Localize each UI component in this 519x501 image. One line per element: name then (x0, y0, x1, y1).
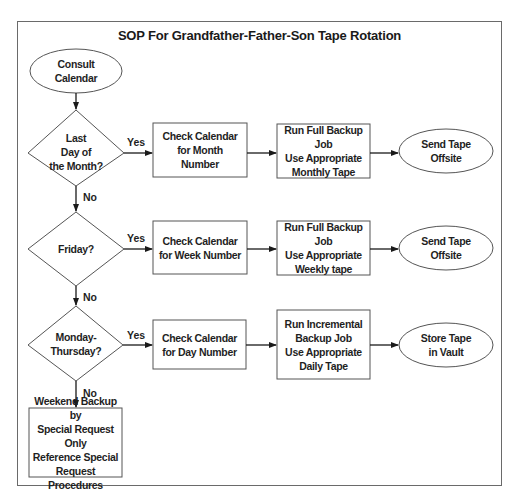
start-node-label: Consult Calendar (30, 49, 122, 93)
diagram-title: SOP For Grandfather-Father-Son Tape Rota… (0, 28, 519, 43)
check-week-label: Check Calendar for Week Number (153, 221, 247, 274)
decision-friday-label: Friday? (36, 240, 116, 258)
end-weekly-label: Send Tape Offsite (399, 226, 493, 270)
run-weekly-label: Run Full Backup Job Use Appropriate Week… (277, 221, 370, 275)
edge-label-friday-no: No (83, 291, 97, 303)
end-monthly-label: Send Tape Offsite (399, 129, 493, 173)
edge-label-weekday-yes: Yes (127, 329, 145, 341)
end-daily-label: Store Tape in Vault (399, 323, 493, 367)
edge-label-month-no: No (83, 191, 97, 203)
decision-month-label: Last Day of the Month? (36, 124, 116, 180)
edge-label-weekday-no: No (83, 387, 97, 399)
check-month-label: Check Calendar for Month Number (153, 123, 247, 177)
check-day-label: Check Calendar for Day Number (153, 320, 246, 369)
edge-label-month-yes: Yes (127, 136, 145, 148)
decision-weekday-label: Monday- Thursday? (36, 328, 116, 360)
weekend-label: Weekend Backup by Special Request Only R… (29, 408, 122, 477)
edge-label-friday-yes: Yes (127, 232, 145, 244)
run-daily-label: Run Incremental Backup Job Use Appropria… (277, 310, 370, 379)
run-monthly-label: Run Full Backup Job Use Appropriate Mont… (277, 124, 370, 178)
flowchart-canvas: SOP For Grandfather-Father-Son Tape Rota… (0, 0, 519, 501)
